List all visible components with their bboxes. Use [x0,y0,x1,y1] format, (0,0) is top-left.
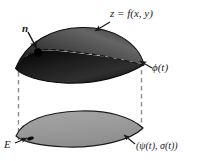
planar-region-shape [16,111,143,147]
surface-over-region-figure: z = f(x, y) n ϕ(t) E (ψ(t), σ(t)) [0,0,201,161]
curved-surface [16,27,145,83]
planar-region [16,111,143,147]
normal-base-point [34,48,42,56]
upper-boundary-curve-label: ϕ(t) [152,62,168,73]
figure-canvas [0,0,201,161]
surface-equation-label: z = f(x, y) [110,8,153,19]
region-label: E [4,139,11,150]
lower-boundary-curve-label: (ψ(t), σ(t)) [136,141,178,151]
normal-vector-label: n [22,23,28,34]
